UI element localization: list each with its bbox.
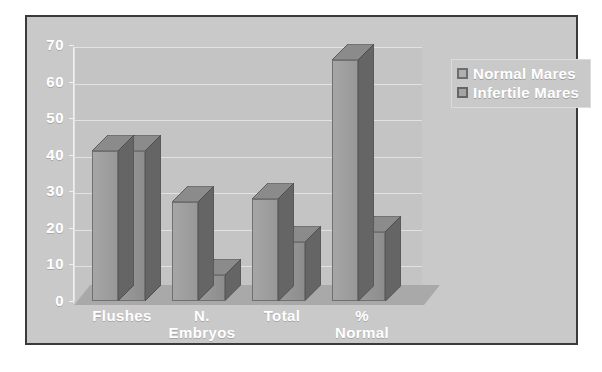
bar-front-face (92, 151, 118, 301)
y-axis-tick-mark (69, 264, 74, 265)
y-axis-tick-mark (69, 155, 74, 156)
chart-legend: Normal Mares Infertile Mares (451, 59, 591, 108)
legend-item-infertile-mares: Infertile Mares (457, 83, 585, 102)
legend-label: Normal Mares (473, 66, 576, 82)
bar-side-face (358, 44, 374, 301)
y-axis-tick-mark (69, 45, 74, 46)
bar-front-face (172, 202, 198, 301)
bar-side-face (118, 135, 134, 301)
y-axis-tick-label: 50 (30, 110, 64, 125)
x-axis-category-label: Flushes (76, 307, 168, 324)
legend-swatch-icon (457, 87, 468, 98)
bar-side-face (198, 186, 214, 301)
bar (172, 186, 214, 301)
bar (332, 44, 374, 301)
y-axis-tick-label: 30 (30, 183, 64, 198)
y-axis-tick-label: 60 (30, 74, 64, 89)
bar-side-face (225, 259, 241, 301)
legend-swatch-icon (457, 68, 468, 79)
bar-side-face (145, 135, 161, 301)
x-axis-category-label: % Normal (316, 307, 408, 341)
bar-side-face (385, 216, 401, 301)
legend-label: Infertile Mares (473, 85, 579, 101)
legend-item-normal-mares: Normal Mares (457, 64, 585, 83)
chart-page: 010203040506070 FlushesN. EmbryosTotal% … (0, 0, 602, 372)
y-axis-tick-mark (69, 82, 74, 83)
y-axis-tick-label: 10 (30, 256, 64, 271)
y-axis-tick-label: 40 (30, 147, 64, 162)
bar-side-face (278, 183, 294, 301)
y-axis-tick-mark (69, 228, 74, 229)
bar (252, 183, 294, 301)
x-axis-category-label: Total (236, 307, 328, 324)
x-axis-category-label: N. Embryos (156, 307, 248, 341)
y-axis-tick-label: 0 (30, 293, 64, 308)
chart-frame: 010203040506070 FlushesN. EmbryosTotal% … (25, 15, 578, 345)
bar-front-face (252, 199, 278, 301)
y-axis-tick-label: 20 (30, 220, 64, 235)
y-axis-tick-mark (69, 191, 74, 192)
y-axis-tick-label: 70 (30, 37, 64, 52)
bar-front-face (332, 60, 358, 301)
bar (92, 135, 134, 301)
bar-side-face (305, 226, 321, 301)
y-axis-tick-mark (69, 118, 74, 119)
